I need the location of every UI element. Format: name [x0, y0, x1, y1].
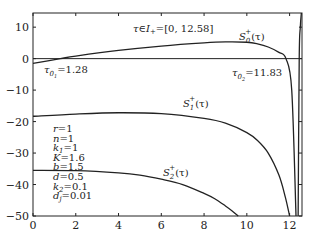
svg-text:10: 10	[15, 21, 29, 34]
svg-text:8: 8	[201, 219, 208, 232]
interval-label: τ∈I+=[0, 12.58]	[133, 23, 213, 36]
svg-text:0: 0	[22, 53, 29, 66]
svg-text:4: 4	[115, 219, 122, 232]
svg-text:6: 6	[158, 219, 165, 232]
svg-text:−40: −40	[6, 179, 29, 192]
svg-text:−30: −30	[6, 147, 29, 160]
svg-text:−10: −10	[6, 84, 29, 97]
s1-label: S1+(τ)	[183, 95, 209, 112]
tau01-label: τ01=1.28	[44, 64, 88, 79]
s2-label: S2+(τ)	[163, 164, 189, 181]
svg-text:12: 12	[283, 219, 297, 232]
curve-boundary	[298, 13, 301, 216]
tau02-label: τ02=11.83	[232, 67, 282, 82]
svg-text:2: 2	[72, 219, 79, 232]
svg-text:10: 10	[240, 219, 254, 232]
axis-tick-labels: 024681012100−10−20−30−40−50	[6, 21, 297, 232]
svg-text:−20: −20	[6, 116, 29, 129]
param-dj: dj=0.01	[53, 190, 92, 203]
chart-svg: 024681012100−10−20−30−40−50 τ∈I+=[0, 12.…	[0, 0, 310, 236]
svg-text:0: 0	[30, 219, 37, 232]
parameter-list: r=1n=1k1=1K=1.6b=1.5d=0.5k2=0.1dj=0.01	[52, 123, 92, 203]
svg-text:−50: −50	[6, 210, 29, 223]
